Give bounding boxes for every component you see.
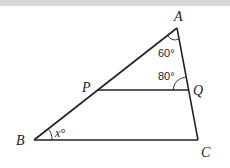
- label-q: Q: [193, 83, 203, 98]
- label-p: P: [81, 80, 91, 95]
- label-a: A: [173, 9, 183, 24]
- angle-label-b: x°: [54, 126, 65, 140]
- angle-arc-q: [173, 77, 186, 90]
- angle-label-a: 60°: [158, 47, 175, 59]
- angle-arc-a: [168, 36, 180, 40]
- side-ab: [34, 28, 177, 140]
- angle-arc-b: [48, 129, 52, 140]
- label-b: B: [16, 133, 25, 148]
- triangle-diagram: A B C P Q 60° 80° x°: [0, 0, 230, 168]
- angle-label-q: 80°: [158, 70, 175, 82]
- label-c: C: [201, 145, 211, 160]
